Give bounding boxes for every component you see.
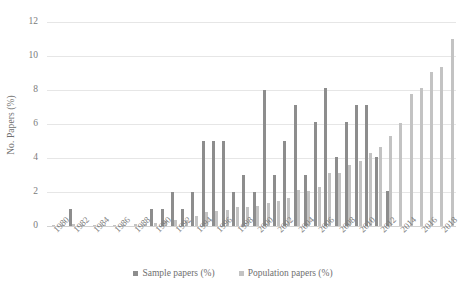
bar-group-1981 [58, 22, 68, 226]
bar-group-2015 [406, 22, 416, 226]
bar-group-1989 [140, 22, 150, 226]
bar-population-2013 [389, 136, 392, 226]
y-tick-label-8: 8 [33, 85, 38, 95]
bar-group-1995 [202, 22, 212, 226]
bar-group-2005 [304, 22, 314, 226]
bar-group-2013 [386, 22, 396, 226]
bar-sample-1990 [150, 209, 153, 226]
bar-population-2017 [430, 72, 433, 226]
legend-swatch-icon-population [239, 271, 244, 276]
bar-sample-2008 [335, 157, 338, 226]
bar-group-2019 [447, 22, 457, 226]
bar-sample-1997 [222, 141, 225, 226]
bar-group-2003 [283, 22, 293, 226]
y-tick-label-6: 6 [33, 119, 38, 129]
bar-group-2016 [416, 22, 426, 226]
bar-population-2004 [297, 190, 300, 226]
bar-group-1992 [171, 22, 181, 226]
bar-group-1997 [222, 22, 232, 226]
bar-sample-2007 [324, 88, 327, 226]
bar-sample-2002 [273, 175, 276, 226]
bar-group-2010 [355, 22, 365, 226]
y-tick-label-0: 0 [33, 221, 38, 231]
bar-population-2010 [359, 161, 362, 226]
legend-label: Sample papers (%) [142, 268, 214, 278]
y-tick-label-4: 4 [33, 153, 38, 163]
bar-group-1998 [232, 22, 242, 226]
bar-sample-2001 [263, 90, 266, 226]
bar-sample-2003 [283, 141, 286, 226]
bar-group-1987 [120, 22, 130, 226]
bars-layer [47, 22, 456, 226]
bar-group-1991 [161, 22, 171, 226]
bar-sample-1996 [212, 141, 215, 226]
bar-population-2006 [318, 187, 321, 226]
bar-group-1999 [242, 22, 252, 226]
chart-legend: Sample papers (%)Population papers (%) [0, 268, 466, 278]
bar-group-2018 [437, 22, 447, 226]
y-tick-label-2: 2 [33, 187, 38, 197]
bar-group-2012 [375, 22, 385, 226]
bar-group-1993 [181, 22, 191, 226]
bar-group-1983 [79, 22, 89, 226]
bar-population-2015 [410, 94, 413, 226]
bar-population-2018 [440, 67, 443, 226]
y-tick-label-12: 12 [29, 17, 39, 27]
bar-population-2012 [379, 147, 382, 226]
bar-group-1988 [130, 22, 140, 226]
bar-group-2007 [324, 22, 334, 226]
bar-group-2004 [294, 22, 304, 226]
bar-group-1984 [89, 22, 99, 226]
bar-group-1996 [212, 22, 222, 226]
bar-group-2011 [365, 22, 375, 226]
bar-sample-2009 [345, 122, 348, 226]
bar-group-2001 [263, 22, 273, 226]
bar-group-2017 [427, 22, 437, 226]
plot-area [47, 22, 456, 226]
bar-chart: No. Papers (%) 024681012 198019821984198… [0, 0, 466, 292]
legend-item-sample[interactable]: Sample papers (%) [133, 268, 214, 278]
x-axis-tick-labels: 1980198219841986198819901992199419961998… [47, 228, 456, 262]
bar-group-2008 [335, 22, 345, 226]
bar-population-2016 [420, 88, 423, 226]
bar-group-2000 [253, 22, 263, 226]
bar-population-2014 [399, 123, 402, 226]
gridline-0 [47, 226, 456, 227]
bar-group-1990 [150, 22, 160, 226]
bar-sample-2012 [375, 157, 378, 226]
bar-group-1994 [191, 22, 201, 226]
bar-group-2006 [314, 22, 324, 226]
bar-group-2014 [396, 22, 406, 226]
legend-swatch-icon-sample [133, 271, 138, 276]
bar-group-1986 [110, 22, 120, 226]
bar-group-2009 [345, 22, 355, 226]
bar-population-2008 [338, 173, 341, 226]
bar-sample-2004 [294, 105, 297, 226]
bar-group-2002 [273, 22, 283, 226]
bar-sample-2010 [355, 105, 358, 226]
bar-sample-2011 [365, 105, 368, 226]
bar-sample-1995 [202, 141, 205, 226]
bar-sample-2006 [314, 122, 317, 226]
legend-label: Population papers (%) [248, 268, 333, 278]
legend-item-population[interactable]: Population papers (%) [239, 268, 333, 278]
y-axis-tick-labels: 024681012 [0, 22, 44, 226]
y-tick-label-10: 10 [29, 51, 39, 61]
bar-population-2019 [451, 39, 454, 226]
bar-group-1985 [99, 22, 109, 226]
bar-group-1982 [69, 22, 79, 226]
bar-group-1980 [48, 22, 58, 226]
